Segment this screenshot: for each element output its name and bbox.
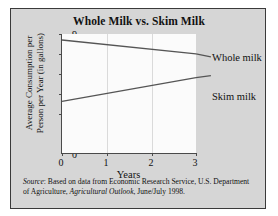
series-label-skim-milk: Skim milk [212, 91, 256, 102]
line-skim-milk [62, 78, 196, 102]
series-label-whole-milk: Whole milk [212, 52, 262, 63]
plot-area [61, 34, 196, 154]
leader-skim-milk [196, 76, 211, 78]
x-tick-mark-2 [152, 153, 153, 156]
y-axis-label-line2: Person per Year (in gallons) [35, 13, 46, 153]
x-tick-mark-0 [62, 153, 63, 156]
source-suffix: , June/July 1998. [134, 187, 185, 196]
x-tick-mark-3 [196, 153, 197, 156]
source-work-title: Agricultural Outlook [70, 187, 134, 196]
x-tick-label-0: 0 [51, 157, 71, 168]
y-axis-label: Average Consumption per Person per Year … [24, 13, 46, 153]
series-lines [62, 34, 196, 153]
x-tick-label-3: 3 [185, 157, 205, 168]
x-tick-label-2: 2 [141, 157, 161, 168]
source-note: Source: Based on data from Economic Rese… [23, 177, 257, 196]
chart-title: Whole Milk vs. Skim Milk [11, 15, 267, 27]
y-axis-label-line1: Average Consumption per [24, 13, 35, 153]
x-tick-label-1: 1 [96, 157, 116, 168]
source-prefix: Source [23, 177, 44, 186]
line-whole-milk [62, 40, 196, 54]
figure-panel: Whole Milk vs. Skim Milk Average Consump… [10, 8, 266, 209]
x-tick-mark-1 [107, 153, 108, 156]
leader-whole-milk [196, 54, 211, 57]
